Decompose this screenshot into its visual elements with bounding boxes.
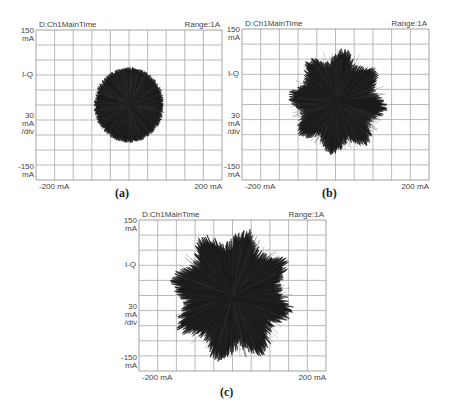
caption-c: (c): [220, 385, 233, 400]
title-left-c: D:Ch1MainTime: [142, 211, 200, 219]
y-mid-label-c: I-Q: [106, 261, 136, 269]
y-bottom-label-c: -150mA: [107, 354, 137, 370]
y-top-label-c: 150mA: [107, 217, 137, 233]
x-right-label-c: 200 mA: [286, 374, 326, 382]
y-scale-label-c: 30mA/div: [107, 303, 137, 327]
iq-trace-c: [170, 229, 294, 361]
title-right-c: Range:1A: [276, 211, 324, 219]
plot-area-c: [0, 0, 453, 412]
x-left-label-c: -200 mA: [142, 374, 172, 382]
